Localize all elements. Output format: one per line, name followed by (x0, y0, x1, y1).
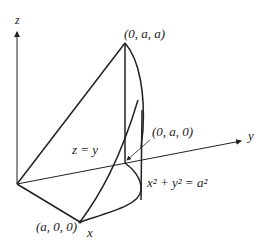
x-axis-label: x (87, 226, 93, 239)
point-label-a00: (a, 0, 0) (36, 220, 77, 233)
plane-edge-top (17, 43, 125, 184)
point-label-0aa: (0, a, a) (124, 27, 165, 40)
point-a00 (78, 220, 81, 223)
point-label-0a0: (0, a, 0) (152, 125, 193, 138)
label-pointer (127, 140, 150, 160)
y-axis-label: y (248, 129, 254, 142)
x-axis-edge (17, 184, 80, 222)
z-axis-label: z (15, 14, 20, 26)
plane-equation-label: z = y (72, 143, 98, 156)
cylinder-equation-label: x² + y² = a² (147, 176, 207, 189)
y-axis (17, 141, 241, 184)
